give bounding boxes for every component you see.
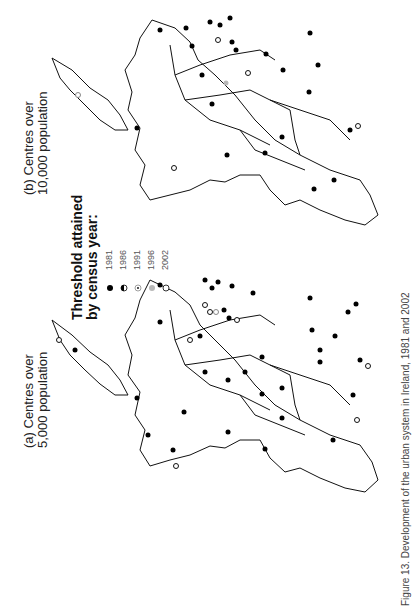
centre-1981	[260, 355, 265, 360]
centre-1981	[351, 393, 356, 398]
centre-1981	[73, 348, 78, 353]
centre-1981	[216, 280, 221, 285]
centre-1981	[243, 370, 248, 375]
panel-a-label-line2: 5,000 population	[36, 352, 50, 448]
centre-2002	[188, 338, 193, 343]
panel-a-label-line1: (a) Centres over	[22, 352, 36, 448]
open-circle-icon	[162, 284, 170, 292]
panel-a-label: (a) Centres over 5,000 population	[22, 352, 50, 448]
centre-1981	[222, 308, 227, 313]
map-a-northern-peninsula	[52, 320, 128, 395]
centre-1981	[146, 433, 151, 438]
centre-1981	[331, 438, 336, 443]
centre-1981	[260, 392, 265, 397]
centre-1996	[224, 81, 229, 86]
centre-1981	[333, 334, 338, 339]
centre-1981	[348, 128, 353, 133]
legend-item-1981	[106, 284, 118, 292]
centre-1981	[308, 296, 313, 301]
centre-1981	[263, 151, 268, 156]
half-filled-circle-icon	[120, 284, 128, 292]
centre-1981	[182, 410, 187, 415]
centre-1981	[358, 358, 363, 363]
centre-1981	[264, 52, 269, 57]
filled-black-circle-icon	[106, 284, 114, 292]
centre-1981	[234, 48, 239, 53]
centre-1986	[332, 178, 337, 183]
centre-1981	[203, 370, 208, 375]
centre-1981	[280, 386, 285, 391]
centre-1981	[210, 102, 215, 107]
dotted-circle-icon	[134, 284, 142, 292]
legend-year-1986: 1986	[118, 250, 128, 270]
legend-title-line2: by census year:	[85, 195, 100, 320]
legend-item-1986	[120, 284, 128, 292]
legend-item-1991	[134, 284, 142, 292]
panel-b-label: (b) Centres over 10,000 population	[22, 92, 50, 195]
centre-1981	[203, 278, 208, 283]
map-b-region-border	[170, 45, 350, 170]
centre-1981	[225, 153, 230, 158]
centre-2002	[216, 38, 221, 43]
centre-2002	[246, 71, 251, 76]
centre-1981	[200, 73, 205, 78]
legend: Threshold attained by census year: 1981 …	[70, 195, 170, 320]
centre-1986	[230, 40, 235, 45]
centre-1981	[158, 28, 163, 33]
centre-1981	[316, 63, 321, 68]
legend-item-1996	[148, 284, 156, 292]
legend-items: 1981 1986 1991 1996 2002	[100, 210, 170, 320]
centre-1981	[308, 31, 313, 36]
centre-1981	[312, 187, 317, 192]
centre-2002	[172, 166, 177, 171]
panel-b-label-line2: 10,000 population	[36, 92, 50, 195]
legend-year-2002: 2002	[160, 250, 170, 270]
centre-1981	[226, 378, 231, 383]
centre-1981	[228, 16, 233, 21]
centre-2002	[174, 464, 179, 469]
centre-2002	[235, 318, 240, 323]
centre-1991	[214, 310, 219, 315]
centre-1981	[208, 20, 213, 25]
centre-2002	[208, 310, 213, 315]
centre-1981	[281, 68, 286, 73]
figure-caption: Figure 13. Development of the urban syst…	[400, 292, 411, 606]
centre-1981	[227, 316, 232, 321]
map-b-northern-peninsula	[52, 58, 128, 130]
map-a-region-border	[170, 310, 350, 435]
centre-1981	[190, 44, 195, 49]
centre-1981	[318, 348, 323, 353]
centre-1981	[263, 447, 268, 452]
legend-year-1991: 1991	[132, 250, 142, 270]
centre-1981	[135, 126, 140, 131]
centre-2002	[366, 364, 371, 369]
centre-2002	[57, 338, 62, 343]
map-b-centres	[76, 16, 361, 192]
centre-1981	[307, 90, 312, 95]
centre-1981	[280, 416, 285, 421]
centre-1981	[171, 448, 176, 453]
centre-1981	[198, 334, 203, 339]
grey-filled-circle-icon	[148, 284, 156, 292]
centre-1981	[346, 310, 351, 315]
panel-b-label-line1: (b) Centres over	[22, 92, 36, 195]
centre-1981	[184, 26, 189, 31]
centre-1981	[226, 430, 231, 435]
legend-year-1981: 1981	[104, 250, 114, 270]
centre-2002	[355, 418, 360, 423]
centre-1981	[280, 135, 285, 140]
centre-2002	[203, 303, 208, 308]
legend-year-1996: 1996	[146, 250, 156, 270]
centre-1981	[230, 284, 235, 289]
legend-item-2002	[162, 284, 170, 292]
centre-1981	[310, 328, 315, 333]
centre-2002	[356, 124, 361, 129]
centre-1981	[218, 23, 223, 28]
legend-title-line1: Threshold attained	[70, 195, 85, 320]
map-figure	[0, 0, 419, 608]
centre-1981	[158, 320, 163, 325]
centre-1991	[76, 93, 81, 98]
centre-1981	[210, 286, 215, 291]
centre-1981	[251, 291, 256, 296]
centre-1981	[135, 396, 140, 401]
